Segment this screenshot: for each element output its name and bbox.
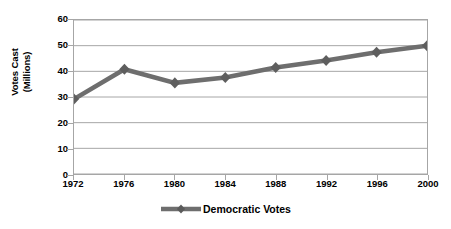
legend-entry-democratic-votes: Democratic Votes xyxy=(160,203,291,215)
line-chart: Votes Cast (Millions) 0102030405060 1972… xyxy=(0,0,451,229)
x-axis-tick-label: 1972 xyxy=(50,178,96,189)
chart-legend: Democratic Votes xyxy=(0,200,451,218)
legend-marker-icon xyxy=(160,203,202,215)
x-axis-tick-label: 1980 xyxy=(151,178,197,189)
x-axis-tick-label: 1984 xyxy=(202,178,248,189)
x-axis-tick-label: 2000 xyxy=(405,178,451,189)
x-axis-tick-label: 1976 xyxy=(101,178,147,189)
x-axis-tick-label: 1992 xyxy=(304,178,350,189)
x-axis-tick-labels: 19721976198019841988199219962000 xyxy=(0,0,451,229)
legend-label: Democratic Votes xyxy=(202,203,291,215)
x-axis-tick-label: 1988 xyxy=(253,178,299,189)
x-axis-tick-label: 1996 xyxy=(354,178,400,189)
